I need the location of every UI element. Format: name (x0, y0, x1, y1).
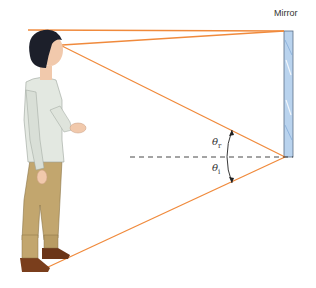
mirror-reflection-diagram (0, 0, 316, 288)
mirror (284, 31, 293, 157)
mirror-label: Mirror (274, 8, 298, 18)
rays (28, 30, 285, 268)
ray-top-of-head (28, 30, 284, 31)
ray-feet-to-mirror-bottom (46, 157, 285, 268)
ray-eye-to-mirror-top (62, 31, 284, 45)
angle-arc (227, 130, 234, 183)
theta-r-label: θr (212, 136, 221, 150)
theta-i-label: θi (212, 162, 220, 176)
theta-i-subscript: i (218, 168, 220, 176)
person (20, 30, 86, 272)
ray-eye-to-mirror-bottom (62, 46, 285, 157)
theta-r-subscript: r (218, 142, 221, 150)
